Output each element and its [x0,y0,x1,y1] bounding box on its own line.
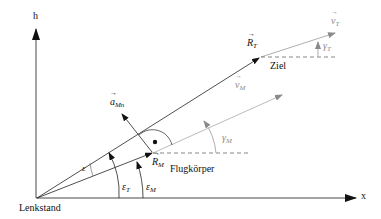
gamma-t-label: γT [323,41,331,53]
a-mn-label: →aMn [110,97,124,109]
v-m-label: →vM [235,80,245,92]
target-range-vector [37,58,259,198]
v-t-label: →vT [331,16,339,28]
r-m-label: →RM [152,157,164,169]
right-angle-dot [153,140,157,144]
x-axis-label: x [361,191,366,201]
missile-label: Flugkörper [170,164,214,174]
target-label: Ziel [270,61,286,71]
missile-range-vector [37,153,152,198]
epsilon-t-arc [109,153,119,198]
missile-velocity-vector [153,95,282,153]
normal-acceleration-vector [122,114,152,152]
epsilon-m-label: εM [146,182,156,194]
gamma-m-label: γM [222,133,232,145]
epsilon-arc [90,163,93,176]
epsilon-label: ε [82,164,86,173]
r-t-label: →RT [247,38,257,50]
epsilon-m-arc [137,162,143,198]
h-axis-label: h [33,11,38,21]
epsilon-t-label: εT [122,182,130,194]
origin-label: Lenkstand [19,203,61,213]
guidance-geometry-diagram [0,0,381,219]
